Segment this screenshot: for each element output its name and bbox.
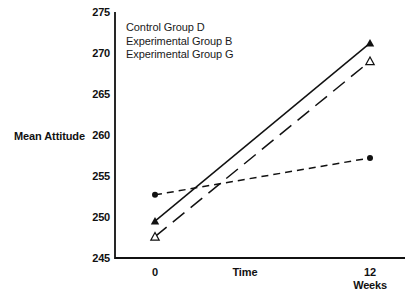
- series-line: [155, 158, 370, 195]
- series-control-group-d: [152, 155, 373, 198]
- data-point-marker: [366, 39, 374, 47]
- plot-area: [0, 0, 416, 295]
- series-line: [155, 61, 370, 236]
- data-point-marker: [366, 57, 374, 65]
- series-line: [155, 43, 370, 221]
- series-experimental-group-b: [151, 39, 374, 225]
- series-experimental-group-g: [151, 57, 374, 240]
- chart-figure: 275 270 265 260 255 250 245 Mean Attitud…: [0, 0, 416, 295]
- data-point-marker: [152, 192, 158, 198]
- data-point-marker: [367, 155, 373, 161]
